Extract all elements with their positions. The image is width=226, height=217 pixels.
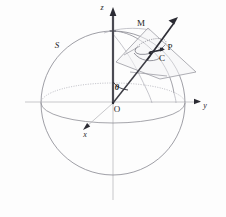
tangency-point-marker	[149, 52, 152, 55]
point-p-label: P	[167, 42, 172, 52]
x-axis-label: x	[82, 130, 87, 139]
sphere-diagram: z y x O S M P C θ	[0, 0, 226, 217]
point-p-marker	[161, 48, 164, 51]
cap-label: C	[159, 53, 165, 63]
meridian-label: M	[137, 18, 145, 28]
origin-label: O	[114, 104, 121, 114]
sphere-label: S	[55, 40, 60, 50]
figure-root: z y x O S M P C θ	[0, 0, 226, 217]
theta-label: θ	[115, 82, 120, 92]
y-axis-label: y	[202, 101, 207, 110]
